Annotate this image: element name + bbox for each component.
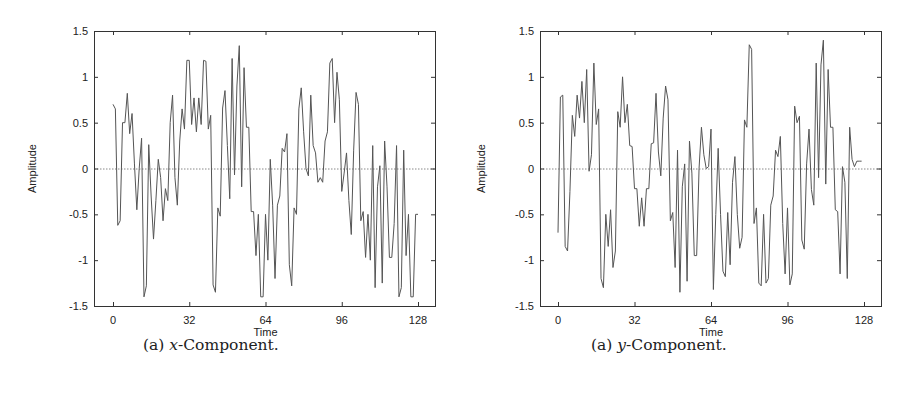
caption-variable: y — [617, 336, 626, 354]
x-tick-label: 0 — [110, 314, 116, 326]
y-tick-labels: 1.510.50-0.5-1-1.5 — [515, 25, 534, 312]
x-tick-label: 96 — [781, 314, 793, 326]
y-tick-label: -1 — [78, 254, 88, 266]
x-tick-label: 32 — [628, 314, 640, 326]
figure-caption: (a) y-Component. — [591, 336, 727, 354]
caption-suffix: -Component. — [178, 336, 279, 354]
x-tick-label: 96 — [336, 314, 348, 326]
y-axis-title: Amplitude — [26, 144, 38, 193]
y-tick-label: -1.5 — [515, 300, 534, 312]
x-tick-label: 64 — [705, 314, 717, 326]
figure-caption: (a) x-Component. — [143, 336, 279, 354]
figure-y-component: 1.510.50-0.5-1-1.5 0326496128 Time Ampli… — [458, 0, 915, 399]
caption-prefix: (a) — [591, 336, 617, 354]
y-tick-label: -0.5 — [515, 208, 534, 220]
y-tick-label: 0.5 — [73, 117, 88, 129]
x-tick-label: 64 — [259, 314, 271, 326]
y-tick-label: -1 — [524, 254, 534, 266]
x-tick-label: 128 — [409, 314, 427, 326]
signal-line — [113, 46, 418, 297]
x-tick-labels: 0326496128 — [555, 314, 873, 326]
y-tick-label: 0.5 — [519, 117, 534, 129]
y-tick-label: 1.5 — [73, 25, 88, 37]
caption-variable: x — [169, 336, 178, 354]
y-tick-label: -0.5 — [69, 208, 88, 220]
y-tick-labels: 1.510.50-0.5-1-1.5 — [69, 25, 88, 312]
y-axis-title: Amplitude — [475, 144, 487, 193]
caption-prefix: (a) — [143, 336, 169, 354]
y-tick-label: 0 — [82, 163, 88, 175]
y-tick-label: 0 — [528, 163, 534, 175]
x-tick-label: 32 — [183, 314, 195, 326]
x-tick-labels: 0326496128 — [110, 314, 427, 326]
caption-suffix: -Component. — [626, 336, 727, 354]
figure-x-component: 1.510.50-0.5-1-1.5 0326496128 Time Ampli… — [0, 0, 458, 399]
y-tick-label: 1.5 — [519, 25, 534, 37]
x-tick-label: 128 — [855, 314, 873, 326]
x-tick-label: 0 — [555, 314, 561, 326]
signal-line — [558, 40, 862, 292]
y-tick-label: 1 — [82, 71, 88, 83]
y-tick-label: 1 — [528, 71, 534, 83]
y-tick-label: -1.5 — [69, 300, 88, 312]
